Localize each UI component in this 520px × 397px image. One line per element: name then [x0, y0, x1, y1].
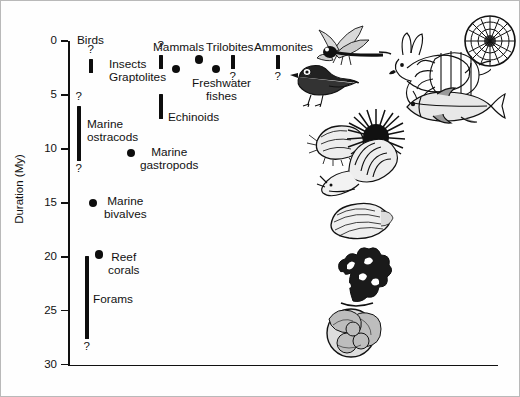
- data-point-graptolites: [172, 65, 180, 73]
- y-tick-mark: [61, 40, 68, 42]
- uncertainty-marker-forams-lower: ?: [84, 341, 90, 353]
- data-point-mammals: [195, 55, 203, 63]
- y-tick-label: 10: [31, 143, 57, 155]
- range-bar-insects: [159, 55, 162, 69]
- series-label-echinoids: Echinoids: [168, 111, 219, 124]
- series-label-marine-bivalves: Marine bivalves: [104, 195, 147, 221]
- uncertainty-marker-trilobites-lower: ?: [230, 71, 236, 83]
- y-tick-label: 30: [31, 359, 57, 371]
- y-tick-label: 15: [31, 197, 57, 209]
- species-duration-figure: Duration (My) 051015202530 ?Birds?Insect…: [0, 0, 520, 397]
- y-tick-label: 0: [31, 35, 57, 47]
- series-label-ammonites: Ammonites: [254, 41, 313, 54]
- uncertainty-marker-marine-ostracods-lower: ?: [76, 163, 82, 175]
- y-tick-mark: [61, 310, 68, 312]
- y-tick-label: 5: [31, 89, 57, 101]
- x-axis-line: [68, 365, 498, 367]
- y-tick-label: 25: [31, 305, 57, 317]
- data-point-marine-bivalves: [89, 199, 97, 207]
- uncertainty-marker-ammonites-lower: ?: [275, 71, 281, 83]
- series-label-mammals: Mammals: [153, 41, 204, 54]
- range-bar-trilobites: [231, 55, 234, 69]
- range-bar-ammonites: [276, 55, 279, 69]
- data-point-freshwater-fishes: [212, 65, 220, 73]
- y-tick-mark: [61, 202, 68, 204]
- series-label-reef-corals: Reef corals: [108, 251, 139, 277]
- series-label-marine-ostracods: Marine ostracods: [87, 118, 138, 144]
- series-label-trilobites: Trilobites: [206, 41, 253, 54]
- range-bar-marine-ostracods: [77, 106, 80, 161]
- series-label-graptolites: Graptolites: [109, 71, 166, 84]
- plot-area: Duration (My) 051015202530 ?Birds?Insect…: [1, 1, 520, 397]
- y-tick-mark: [61, 256, 68, 258]
- data-point-marine-gastropods: [127, 149, 135, 157]
- range-bar-birds: [89, 59, 92, 73]
- series-label-forams: Forams: [93, 293, 133, 306]
- series-label-marine-gastropods: Marine gastropods: [140, 146, 198, 172]
- y-tick-mark: [61, 364, 68, 366]
- y-axis-line: [68, 41, 70, 366]
- range-bar-echinoids: [159, 94, 162, 119]
- series-label-birds: Birds: [77, 34, 104, 47]
- y-axis-title: Duration (My): [13, 109, 25, 269]
- range-bar-forams: [85, 256, 88, 339]
- y-tick-mark: [61, 94, 68, 96]
- uncertainty-marker-marine-ostracods-upper: ?: [76, 91, 82, 103]
- y-tick-mark: [61, 148, 68, 150]
- y-tick-label: 20: [31, 251, 57, 263]
- series-label-freshwater-fishes: Freshwater fishes: [192, 77, 251, 103]
- data-point-reef-corals: [95, 250, 103, 258]
